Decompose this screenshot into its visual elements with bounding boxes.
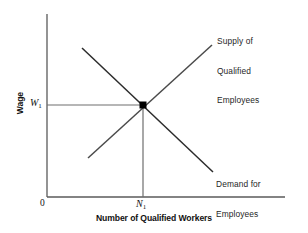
origin-tick-label: 0: [40, 198, 45, 209]
y-axis-title: Wage: [15, 77, 25, 129]
supply-curve: [88, 45, 212, 158]
demand-label-line-1: Demand for: [216, 180, 261, 190]
chart-figure: Supply of Qualified Employees Demand for…: [0, 0, 308, 233]
demand-curve: [82, 48, 213, 172]
supply-label-line-3: Employees: [217, 96, 259, 106]
workers-tick-subscript: 1: [143, 203, 147, 211]
workers-tick-base: N: [136, 198, 143, 209]
supply-demand-plot: [0, 0, 308, 233]
workers-tick-label: N1: [136, 198, 146, 211]
equilibrium-point-marker: [140, 102, 147, 109]
supply-label-line-1: Supply of: [217, 37, 259, 47]
wage-tick-subscript: 1: [38, 102, 42, 110]
supply-label-line-2: Qualified: [217, 67, 259, 77]
wage-tick-label: W1: [30, 97, 42, 110]
supply-curve-label: Supply of Qualified Employees: [217, 17, 259, 126]
x-axis-title: Number of Qualified Workers: [0, 213, 308, 223]
